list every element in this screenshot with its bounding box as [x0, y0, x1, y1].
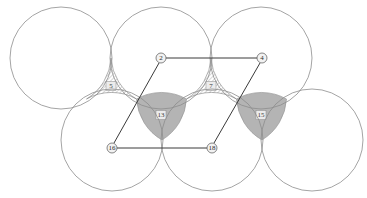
- circle-packing-diagram: 571315 241618: [0, 0, 367, 198]
- node-2-label: 2: [159, 54, 163, 62]
- region-gray-right-label: 15: [258, 111, 266, 119]
- node-4-label: 4: [260, 54, 264, 62]
- node-16-label: 16: [109, 144, 117, 152]
- node-18[interactable]: 18: [207, 143, 217, 153]
- node-16[interactable]: 16: [107, 143, 117, 153]
- node-2[interactable]: 2: [156, 53, 166, 63]
- figure-canvas: 571315 241618: [0, 0, 367, 198]
- node-4[interactable]: 4: [257, 53, 267, 63]
- region-gray-left-label: 13: [158, 111, 166, 119]
- node-18-label: 18: [209, 144, 217, 152]
